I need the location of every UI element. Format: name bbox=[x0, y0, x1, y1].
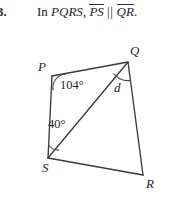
vertex-label-s: S bbox=[42, 161, 49, 174]
angle-label-d: d bbox=[114, 81, 121, 94]
problem-statement: In PQRS, PS || QR. bbox=[37, 4, 137, 20]
side-rs bbox=[48, 158, 143, 175]
parallel-symbol: || bbox=[107, 4, 113, 19]
segment-qr: QR bbox=[117, 4, 134, 18]
problem-header: 3. In PQRS, PS || QR. bbox=[0, 0, 186, 26]
vertex-label-p: P bbox=[38, 60, 46, 73]
angle-label-40: 40° bbox=[48, 118, 66, 131]
quadrilateral-drawing bbox=[0, 24, 186, 202]
segment-ps: PS bbox=[89, 4, 103, 18]
angle-label-104: 104° bbox=[60, 79, 84, 92]
statement-period: . bbox=[134, 4, 137, 19]
quadrilateral-name: PQRS bbox=[51, 4, 83, 19]
side-qr bbox=[128, 62, 143, 175]
statement-prefix: In bbox=[37, 4, 48, 19]
worksheet-problem: 3. In PQRS, PS || QR. bbox=[0, 0, 186, 202]
vertex-label-q: Q bbox=[130, 44, 139, 57]
problem-number: 3. bbox=[0, 4, 7, 20]
statement-comma: , bbox=[83, 4, 86, 19]
geometry-figure: P Q R S 104° 40° d bbox=[0, 24, 186, 202]
vertex-label-r: R bbox=[146, 177, 154, 190]
